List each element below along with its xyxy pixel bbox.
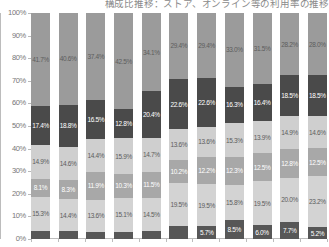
bar-segment[interactable]: 6.0%: [253, 225, 272, 239]
bar-segment[interactable]: 15.8%: [225, 185, 244, 220]
bar-segment[interactable]: 3.2%: [86, 232, 105, 239]
bar-segment-label: 5.2%: [311, 230, 324, 237]
y-axis: 100%90%80%70%60%50%40%30%20%10%0%: [0, 13, 31, 239]
bar-column[interactable]: 29.4%22.6%13.6%12.2%19.5%5.7%: [197, 13, 216, 239]
bar-segment-label: 29.4%: [198, 42, 215, 49]
bar-segment[interactable]: 3.4%: [59, 231, 78, 239]
bar-segment[interactable]: 15.1%: [114, 198, 133, 232]
bar-segment[interactable]: 37.4%: [86, 13, 105, 100]
bar-segment[interactable]: 15.9%: [114, 138, 133, 174]
bar-segment[interactable]: 16.5%: [86, 100, 105, 138]
bar-segment[interactable]: 8.5%: [225, 220, 244, 239]
x-axis-tick-mark: [273, 239, 274, 242]
bar-segment[interactable]: 5.2%: [308, 227, 327, 239]
bar-segment[interactable]: 13.6%: [197, 127, 216, 157]
bar-segment[interactable]: 5.7%: [169, 226, 188, 239]
bar-segment[interactable]: 19.5%: [169, 183, 188, 227]
bar-segment[interactable]: 42.5%: [114, 13, 133, 109]
bar-segment[interactable]: 16.4%: [253, 84, 272, 121]
bar-segment[interactable]: 41.7%: [31, 13, 50, 106]
bar-segment[interactable]: 7.7%: [280, 222, 299, 239]
bar-segment-label: 14.5%: [143, 211, 160, 218]
bar-segment-label: 23.2%: [309, 198, 326, 205]
bar-segment[interactable]: 3.3%: [142, 231, 161, 239]
y-axis-tick-label: 20%: [12, 190, 26, 198]
bar-segment[interactable]: 18.5%: [308, 75, 327, 116]
bar-segment-label: 5.7%: [200, 229, 213, 236]
bar-segment-label: 15.3%: [226, 137, 243, 144]
bar-segment[interactable]: 10.3%: [114, 174, 133, 197]
bar-column[interactable]: 37.4%16.5%14.4%11.9%13.6%3.2%: [86, 13, 105, 239]
x-axis-tick-mark: [219, 239, 220, 242]
bar-segment-label: 37.4%: [88, 53, 105, 60]
bar-segment[interactable]: 18.8%: [59, 105, 78, 147]
y-axis-tick-label: 100%: [8, 9, 26, 17]
bar-segment-label: 18.5%: [309, 92, 326, 99]
bar-segment-label: 6.0%: [255, 229, 268, 236]
bar-segment[interactable]: 17.4%: [31, 106, 50, 145]
bar-segment[interactable]: 8.3%: [59, 180, 78, 199]
bar-column[interactable]: 29.4%22.6%13.6%10.2%19.5%5.7%: [169, 13, 188, 239]
bar-segment[interactable]: 20.0%: [280, 178, 299, 222]
bar-segment-label: 14.6%: [309, 129, 326, 136]
bar-segment[interactable]: 22.6%: [197, 78, 216, 128]
bar-segment[interactable]: 19.5%: [197, 184, 216, 227]
bar-segment[interactable]: 12.5%: [253, 153, 272, 181]
bar-segment[interactable]: 12.5%: [308, 148, 327, 176]
bar-segment[interactable]: 33.0%: [225, 13, 244, 87]
y-axis-tick-label: 70%: [12, 77, 26, 85]
bar-segment[interactable]: 18.5%: [280, 75, 299, 116]
bar-segment[interactable]: 14.5%: [142, 198, 161, 231]
bar-column[interactable]: 31.5%16.4%13.9%12.5%19.5%6.0%: [253, 13, 272, 239]
bar-segment[interactable]: 12.3%: [225, 157, 244, 184]
bar-segment[interactable]: 29.4%: [169, 13, 188, 79]
bar-segment[interactable]: 14.6%: [308, 116, 327, 148]
bar-segment[interactable]: 8.1%: [31, 179, 50, 197]
bar-segment[interactable]: 19.5%: [253, 181, 272, 225]
bar-segment[interactable]: 15.3%: [225, 123, 244, 157]
bar-segment[interactable]: 23.2%: [308, 176, 327, 227]
bar-segment-label: 7.7%: [283, 227, 296, 234]
bar-segment[interactable]: 20.4%: [142, 91, 161, 138]
bar-segment[interactable]: 34.1%: [142, 13, 161, 91]
bar-segment[interactable]: 13.6%: [86, 200, 105, 232]
bar-segment[interactable]: 14.6%: [59, 147, 78, 180]
bar-column[interactable]: 33.0%16.3%15.3%12.3%15.8%8.5%: [225, 13, 244, 239]
bar-column[interactable]: 40.6%18.8%14.6%8.3%14.4%3.4%: [59, 13, 78, 239]
bar-segment[interactable]: 3.2%: [114, 232, 133, 239]
bar-segment-label: 12.5%: [254, 164, 271, 171]
bar-segment[interactable]: 14.4%: [86, 139, 105, 173]
bar-segment[interactable]: 3.6%: [31, 231, 50, 239]
bar-column[interactable]: 28.0%18.5%14.6%12.5%23.2%5.2%: [308, 13, 327, 239]
bar-segment-label: 20.4%: [143, 111, 160, 118]
bar-segment[interactable]: 12.2%: [197, 157, 216, 184]
bar-segment[interactable]: 14.9%: [31, 145, 50, 178]
bar-segment[interactable]: 16.3%: [225, 87, 244, 123]
bar-segment[interactable]: 5.7%: [197, 226, 216, 239]
bar-segment-label: 33.0%: [226, 46, 243, 53]
bar-segment[interactable]: 12.8%: [114, 109, 133, 138]
bar-segment[interactable]: 14.4%: [59, 199, 78, 232]
bar-segment[interactable]: 31.5%: [253, 13, 272, 84]
bar-segment[interactable]: 12.8%: [280, 149, 299, 177]
bar-segment[interactable]: 13.6%: [169, 129, 188, 159]
bar-column[interactable]: 34.1%20.4%14.7%11.5%14.5%3.3%: [142, 13, 161, 239]
bar-column[interactable]: 42.5%12.8%15.9%10.3%15.1%3.2%: [114, 13, 133, 239]
bar-column[interactable]: 41.7%17.4%14.9%8.1%15.3%3.6%: [31, 13, 50, 239]
bar-column[interactable]: 28.2%18.5%14.9%12.8%20.0%7.7%: [280, 13, 299, 239]
bar-segment[interactable]: 14.9%: [280, 116, 299, 149]
bar-segment[interactable]: 29.4%: [197, 13, 216, 78]
bar-segment[interactable]: 28.2%: [280, 13, 299, 75]
bar-segment[interactable]: 15.3%: [31, 197, 50, 231]
bar-segment[interactable]: 40.6%: [59, 13, 78, 105]
bar-segment[interactable]: 28.0%: [308, 13, 327, 75]
bar-segment[interactable]: 13.9%: [253, 121, 272, 152]
bar-segment-label: 14.9%: [32, 158, 49, 165]
bar-segment[interactable]: 10.2%: [169, 160, 188, 183]
bar-segment[interactable]: 22.6%: [169, 79, 188, 130]
bar-segment-label: 18.5%: [281, 92, 298, 99]
bar-segment[interactable]: 11.5%: [142, 172, 161, 198]
bar-segment-label: 16.5%: [88, 116, 105, 123]
bar-segment[interactable]: 11.9%: [86, 172, 105, 200]
bar-segment[interactable]: 14.7%: [142, 138, 161, 172]
